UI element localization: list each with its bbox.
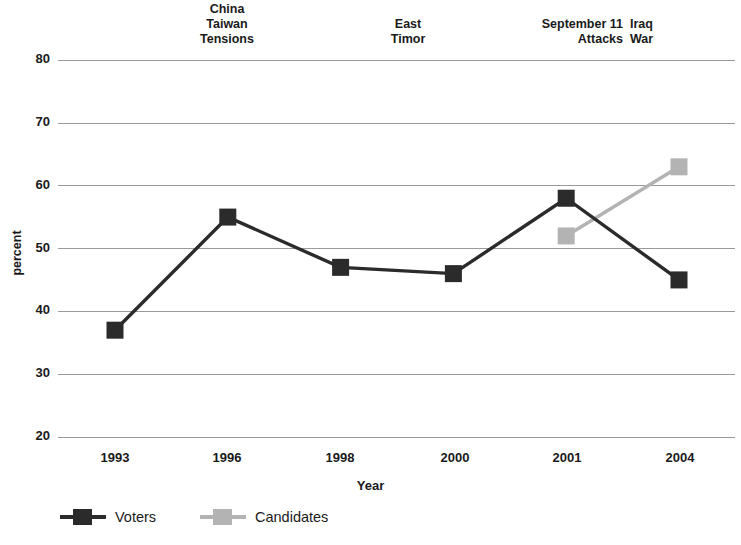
data-point-voters-1993[interactable] [107, 322, 124, 339]
data-point-voters-2004[interactable] [671, 271, 688, 288]
legend-item-voters[interactable]: Voters [60, 505, 156, 529]
legend-swatch-voters-icon [60, 507, 106, 527]
x-tick-label-1996: 1996 [182, 450, 272, 465]
legend-item-candidates[interactable]: Candidates [200, 505, 328, 529]
data-point-voters-2000[interactable] [445, 265, 462, 282]
series-candidates [558, 158, 688, 244]
x-tick-label-1993: 1993 [70, 450, 160, 465]
x-tick-label-2001: 2001 [522, 450, 612, 465]
data-point-candidates-2001[interactable] [558, 227, 575, 244]
legend-swatch-candidates-icon [200, 507, 246, 527]
data-point-voters-1996[interactable] [219, 209, 236, 226]
x-tick-label-2004: 2004 [635, 450, 725, 465]
legend-label-candidates: Candidates [255, 509, 328, 525]
data-point-voters-1998[interactable] [332, 259, 349, 276]
series-voters [107, 190, 688, 339]
series-line-voters [115, 198, 679, 330]
series-line-candidates [566, 167, 679, 236]
legend-label-voters: Voters [115, 509, 156, 525]
x-tick-label-2000: 2000 [410, 450, 500, 465]
chart-container: China Taiwan Tensions East Timor Septemb… [0, 0, 741, 545]
data-point-candidates-2004[interactable] [671, 158, 688, 175]
x-tick-label-1998: 1998 [295, 450, 385, 465]
data-point-voters-2001[interactable] [558, 190, 575, 207]
